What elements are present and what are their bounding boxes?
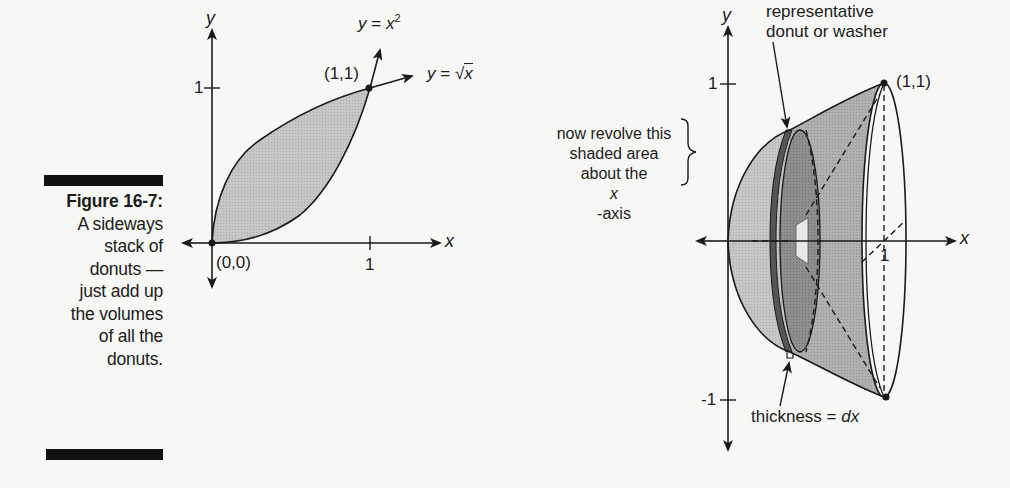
eq-text: =	[436, 64, 455, 83]
right-point-label: (1,1)	[896, 72, 931, 92]
right-y-tick-bottom-label: -1	[701, 390, 716, 410]
washer-label-line2: donut or washer	[766, 22, 888, 42]
annotation-x: x	[548, 184, 680, 204]
left-y-tick-label: 1	[194, 78, 203, 98]
curve-square-label: yy = x = x2	[358, 12, 401, 34]
point-1-1	[881, 80, 888, 87]
eq-text: =	[367, 14, 386, 33]
annotation-line: about the x-axis	[548, 164, 680, 224]
right-y-tick-top-label: 1	[708, 74, 717, 94]
right-x-tick-label: 1	[880, 246, 889, 266]
revolve-annotation: now revolve this shaded area about the x…	[548, 124, 680, 224]
annotation-text: about the	[548, 164, 680, 184]
right-y-axis-label: y	[722, 5, 731, 26]
intersection-label: (1,1)	[324, 64, 359, 84]
thickness-label-text: thickness =	[751, 407, 841, 426]
washer-label-line1: representative	[766, 2, 888, 22]
point-1-neg1	[883, 394, 890, 401]
y-var: y	[427, 64, 436, 83]
washer-callout-arrow	[773, 42, 787, 127]
radicand: x	[464, 63, 473, 83]
thickness-callout-arrow	[780, 363, 789, 406]
origin-point	[209, 240, 216, 247]
annotation-line: now revolve this	[548, 124, 680, 144]
exponent: 2	[394, 12, 400, 24]
left-y-axis-label: y	[206, 8, 215, 29]
radical-sign: √	[455, 64, 464, 83]
right-x-axis-label: x	[960, 228, 969, 249]
left-graph	[183, 30, 440, 287]
washer-label: representative donut or washer	[766, 2, 888, 42]
curve-sqrt-label: y = √x	[427, 64, 473, 84]
left-x-tick-label: 1	[365, 255, 374, 275]
intersection-point	[366, 85, 373, 92]
annotation-suffix: -axis	[548, 204, 680, 224]
curly-brace	[681, 119, 696, 185]
annotation-line: shaded area	[548, 144, 680, 164]
origin-label: (0,0)	[216, 253, 251, 273]
thickness-label: thickness = dx	[751, 407, 859, 427]
left-x-axis-label: x	[445, 231, 454, 252]
thickness-label-var: dx	[841, 407, 859, 426]
